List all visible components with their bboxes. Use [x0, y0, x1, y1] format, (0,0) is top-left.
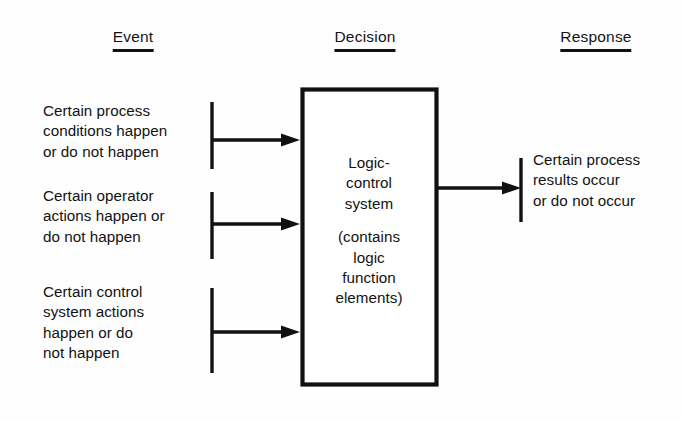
output-text-process-results: Certain process results occur or do not …: [533, 150, 640, 211]
input-arrowhead-2: [281, 218, 300, 231]
process-box-label: Logic- control system (contains logic fu…: [301, 153, 437, 309]
column-header-response-label: Response: [560, 28, 631, 52]
column-header-response: Response: [560, 28, 631, 52]
input-text-line: not happen: [43, 343, 144, 363]
process-box-detail-line: elements): [301, 288, 437, 308]
output-arrowhead: [502, 182, 521, 195]
input-text-line: Certain control: [43, 282, 144, 302]
column-header-decision-label: Decision: [334, 28, 395, 52]
column-header-decision: Decision: [334, 28, 395, 52]
input-text-control-system-actions: Certain control system actions happen or…: [43, 282, 144, 364]
process-box-title-line: control: [301, 173, 437, 193]
input-text-line: actions happen or: [43, 206, 165, 226]
input-text-line: happen or do: [43, 323, 144, 343]
process-box-gap: [301, 214, 437, 227]
column-header-event-label: Event: [113, 28, 154, 52]
process-box-title-line: system: [301, 194, 437, 214]
input-arrowhead-3: [281, 326, 300, 339]
logic-control-diagram: Event Decision Response Certain process: [0, 0, 683, 421]
input-text-line: system actions: [43, 302, 144, 322]
output-text-line: or do not occur: [533, 191, 640, 211]
input-text-line: Certain process: [43, 101, 167, 121]
process-box-detail-line: (contains: [301, 227, 437, 247]
column-header-event: Event: [113, 28, 154, 52]
input-text-line: do not happen: [43, 227, 165, 247]
input-arrowhead-1: [281, 134, 300, 147]
process-box-detail-line: function: [301, 268, 437, 288]
input-text-operator-actions: Certain operator actions happen or do no…: [43, 186, 165, 247]
input-text-line: Certain operator: [43, 186, 165, 206]
output-text-line: results occur: [533, 170, 640, 190]
process-box-title-line: Logic-: [301, 153, 437, 173]
output-text-line: Certain process: [533, 150, 640, 170]
input-text-process-conditions: Certain process conditions happen or do …: [43, 101, 167, 162]
input-text-line: or do not happen: [43, 142, 167, 162]
input-text-line: conditions happen: [43, 121, 167, 141]
process-box-detail-line: logic: [301, 248, 437, 268]
